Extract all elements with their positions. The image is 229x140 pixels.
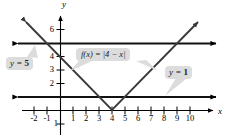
graph-figure: y x -2 -1 1 2 3 4 5 6 7 8 9 10 6 4 3 2 1… [0, 0, 229, 140]
callout-y-equals-1: y = 1 [165, 66, 192, 79]
x-tick-label-5: 5 [119, 113, 131, 123]
x-tick-label-7: 7 [145, 113, 157, 123]
callout-y5-value: 5 [25, 58, 30, 68]
x-tick-label-6: 6 [132, 113, 144, 123]
y-tick-label-6: 6 [44, 24, 54, 34]
x-tick-label-10: 10 [182, 113, 198, 123]
x-tick-label-neg2: -2 [28, 113, 40, 123]
callout-y-equals-5: y = 5 [6, 57, 33, 70]
x-axis-label: x [218, 106, 222, 116]
x-tick-label-8: 8 [158, 113, 170, 123]
x-tick-label-3: 3 [93, 113, 105, 123]
tail-y1 [165, 78, 186, 96]
y-tick-label-1: 1 [48, 118, 58, 128]
y-tick-label-2: 2 [44, 78, 54, 88]
callout-y1-eq: = [173, 67, 184, 77]
tail-fx-left [70, 60, 92, 71]
x-tick-label-1: 1 [67, 113, 79, 123]
callout-function-label: f(x) = |4 − x| [76, 48, 130, 61]
y-axis-label: y [62, 0, 66, 9]
y-tick-label-4: 4 [44, 51, 54, 61]
x-tick-label-2: 2 [80, 113, 92, 123]
callout-y1-value: 1 [184, 67, 189, 77]
y-tick-label-3: 3 [44, 64, 54, 74]
callout-y5-eq: = [14, 58, 25, 68]
x-tick-label-4: 4 [106, 113, 118, 123]
